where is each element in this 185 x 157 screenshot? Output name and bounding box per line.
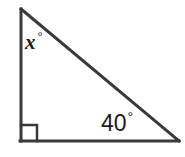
triangle-side-hypotenuse <box>21 9 179 141</box>
degree-symbol-icon: ° <box>128 109 134 125</box>
right-angle-square-icon <box>21 125 37 141</box>
degree-symbol-icon: ° <box>38 29 43 44</box>
angle-label-x-value: x <box>25 30 36 54</box>
angle-label-x: x° <box>25 30 43 53</box>
angle-label-40-value: 40 <box>101 110 127 136</box>
geometry-figure: x° 40° <box>0 0 185 157</box>
angle-label-40: 40° <box>101 110 133 135</box>
triangle-drawing <box>0 0 185 157</box>
